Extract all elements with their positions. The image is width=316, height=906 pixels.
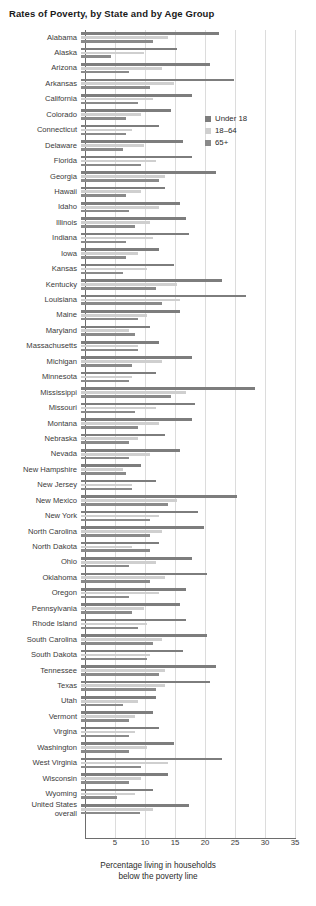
bar-under-18 [81,295,246,298]
bar-65 [81,333,135,336]
bar-under-18 [81,603,180,606]
bar-under-18 [81,109,171,112]
row-bars [81,632,292,647]
bar-under-18 [81,372,156,375]
bar-65 [81,812,140,815]
bar-65 [81,179,159,182]
bar-under-18 [81,804,189,807]
chart-row: Wisconsin [0,771,316,786]
chart-row: South Dakota [0,648,316,663]
state-label: United States overall [0,801,81,817]
state-label: Arizona [0,64,81,72]
state-label: Illinois [0,219,81,227]
bar-18-64 [81,484,132,487]
row-bars [81,45,292,60]
bar-under-18 [81,48,177,51]
bar-under-18 [81,681,210,684]
row-bars [81,370,292,385]
row-bars [81,648,292,663]
chart-row: North Dakota [0,539,316,554]
legend-swatch-icon [205,116,211,122]
bar-18-64 [81,175,165,178]
chart-row: Louisiana [0,292,316,307]
bar-18-64 [81,808,153,811]
bar-65 [81,580,150,583]
bar-under-18 [81,526,204,529]
chart-row: Utah [0,694,316,709]
row-bars [81,771,292,786]
bar-under-18 [81,495,237,498]
bar-under-18 [81,279,222,282]
bar-65 [81,642,153,645]
bar-18-64 [81,437,138,440]
bar-65 [81,426,138,429]
state-label: Washington [0,744,81,752]
legend-label: 65+ [215,138,228,147]
page-title: Rates of Poverty, by State and by Age Gr… [9,8,214,19]
row-bars [81,401,292,416]
bar-under-18 [81,696,156,699]
chart-row: Pennsylvania [0,601,316,616]
bar-18-64 [81,113,141,116]
row-bars [81,262,292,277]
bar-under-18 [81,434,165,437]
state-label: South Carolina [0,636,81,644]
bar-65 [81,658,147,661]
chart-row: Vermont [0,709,316,724]
bar-18-64 [81,453,150,456]
row-bars [81,277,292,292]
state-label: Kansas [0,265,81,273]
bar-65 [81,364,132,367]
bar-65 [81,256,126,259]
row-bars [81,509,292,524]
bar-65 [81,735,129,738]
bar-65 [81,673,159,676]
bar-under-18 [81,403,195,406]
chart-row: Georgia [0,169,316,184]
legend-label: Under 18 [215,114,247,123]
bar-65 [81,55,111,58]
bar-18-64 [81,422,159,425]
state-label: Maine [0,311,81,319]
bar-65 [81,688,156,691]
row-bars [81,61,292,76]
bar-18-64 [81,36,168,39]
bar-18-64 [81,160,156,163]
bar-18-64 [81,283,177,286]
bar-18-64 [81,144,144,147]
chart-row: Texas [0,678,316,693]
row-bars [81,524,292,539]
state-label: Tennessee [0,667,81,675]
row-bars [81,92,292,107]
bar-18-64 [81,715,135,718]
state-label: Virgina [0,728,81,736]
bar-65 [81,86,150,89]
bar-18-64 [81,607,144,610]
chart-row: Alabama [0,30,316,45]
row-bars [81,416,292,431]
bar-under-18 [81,202,180,205]
row-bars [81,478,292,493]
bar-18-64 [81,777,141,780]
state-label: Oklahoma [0,574,81,582]
bar-65 [81,503,168,506]
row-bars [81,725,292,740]
bar-18-64 [81,345,138,348]
bar-under-18 [81,187,165,190]
bar-18-64 [81,592,159,595]
chart-row: New Hampshire [0,462,316,477]
chart-row: Montana [0,416,316,431]
state-label: North Carolina [0,528,81,536]
bar-under-18 [81,387,255,390]
state-label: Utah [0,697,81,705]
bar-18-64 [81,561,156,564]
chart-row: Nebraska [0,431,316,446]
bar-18-64 [81,468,123,471]
state-label: Wyoming [0,790,81,798]
bar-18-64 [81,98,153,101]
bar-65 [81,287,156,290]
row-bars [81,169,292,184]
row-bars [81,200,292,215]
row-bars [81,802,292,817]
legend: Under 1818–6465+ [205,113,295,149]
